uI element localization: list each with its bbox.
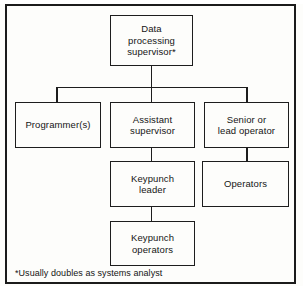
- node-programmers[interactable]: Programmer(s): [15, 102, 101, 148]
- node-label-senior-or-lead-operator: Senior or lead operator: [216, 114, 277, 137]
- node-label-keypunch-leader: Keypunch leader: [129, 173, 176, 196]
- connector-assistant-to-keypunch-leader: [151, 148, 153, 162]
- connector-to-senior-operator: [246, 87, 248, 103]
- node-label-operators: Operators: [222, 178, 269, 190]
- node-label-keypunch-operators: Keypunch operators: [129, 232, 176, 255]
- connector-to-programmer: [56, 87, 58, 103]
- org-chart-figure: Data processing supervisor* Programmer(s…: [0, 0, 303, 294]
- node-operators[interactable]: Operators: [202, 161, 289, 207]
- scan-edge-bottom: [0, 286, 303, 294]
- node-keypunch-leader[interactable]: Keypunch leader: [110, 161, 195, 207]
- node-label-programmers: Programmer(s): [23, 119, 92, 131]
- connector-senior-to-operators: [246, 148, 248, 162]
- connector-to-assistant-supervisor: [151, 87, 153, 103]
- node-senior-or-lead-operator[interactable]: Senior or lead operator: [204, 102, 289, 148]
- node-keypunch-operators[interactable]: Keypunch operators: [110, 221, 195, 266]
- scan-edge-top: [0, 0, 303, 4]
- figure-footnote: *Usually doubles as systems analyst: [15, 268, 162, 279]
- connector-keypunch-leader-to-operators: [151, 207, 153, 222]
- node-data-processing-supervisor[interactable]: Data processing supervisor*: [110, 15, 193, 66]
- node-label-data-processing-supervisor: Data processing supervisor*: [125, 23, 178, 58]
- node-assistant-supervisor[interactable]: Assistant supervisor: [110, 102, 195, 148]
- connector-supervisor-stem: [151, 66, 153, 87]
- node-label-assistant-supervisor: Assistant supervisor: [128, 114, 177, 137]
